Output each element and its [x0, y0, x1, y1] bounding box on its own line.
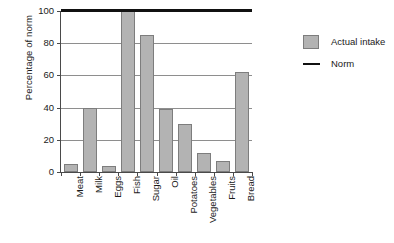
x-axis-label-milk: Milk — [94, 176, 104, 193]
bar-fruits — [216, 161, 230, 172]
legend-label-actual-intake: Actual intake — [331, 35, 385, 48]
bar-milk — [83, 108, 97, 172]
x-axis-label-potatoes: Potatoes — [189, 176, 199, 214]
y-axis-title: Percentage of norm — [23, 0, 34, 138]
bar-fish — [121, 11, 135, 172]
y-tick-label: 0 — [49, 167, 54, 177]
legend-item-norm: Norm — [303, 55, 393, 77]
chart-container: Percentage of norm 020406080100 MeatMilk… — [0, 0, 394, 243]
legend-swatch-icon — [303, 35, 319, 49]
x-axis-labels: MeatMilkEggsFishSugarOilPotatoesVegetabl… — [61, 176, 252, 236]
x-axis-label-eggs: Eggs — [113, 176, 123, 198]
x-axis-label-sugar: Sugar — [151, 176, 161, 201]
legend-label-norm: Norm — [331, 57, 354, 70]
plot-area: 020406080100 — [61, 11, 252, 172]
bar-potatoes — [178, 124, 192, 172]
x-axis-label-fruits: Fruits — [227, 176, 237, 200]
x-axis-label-fish: Fish — [132, 176, 142, 194]
y-tick-label: 100 — [38, 6, 54, 16]
bar-eggs — [102, 166, 116, 172]
x-axis-label-vegetables: Vegetables — [208, 176, 218, 223]
x-axis-label-oil: Oil — [170, 176, 180, 188]
x-axis-label-bread: Bread — [246, 176, 256, 201]
chart-legend: Actual intake Norm — [303, 33, 393, 77]
bar-bread — [235, 72, 249, 172]
bar-meat — [64, 164, 78, 172]
legend-line-icon — [303, 63, 320, 65]
y-tick-label: 20 — [43, 135, 54, 145]
bar-series-actual-intake — [61, 11, 252, 172]
y-tick-label: 60 — [43, 71, 54, 81]
x-axis-label-meat: Meat — [75, 176, 85, 197]
y-tick-label: 80 — [43, 38, 54, 48]
bar-vegetables — [197, 153, 211, 172]
norm-line — [61, 9, 252, 12]
y-tick-label: 40 — [43, 103, 54, 113]
bar-sugar — [140, 35, 154, 172]
bar-oil — [159, 109, 173, 172]
legend-item-actual-intake: Actual intake — [303, 33, 393, 55]
